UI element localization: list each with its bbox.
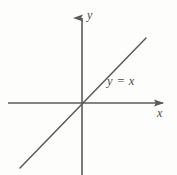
graph-svg — [0, 0, 177, 175]
x-axis-label: x — [157, 107, 162, 119]
figure-canvas: y x y = x — [0, 0, 177, 175]
equation-label: y = x — [107, 75, 135, 88]
y-axis-label: y — [87, 9, 92, 21]
